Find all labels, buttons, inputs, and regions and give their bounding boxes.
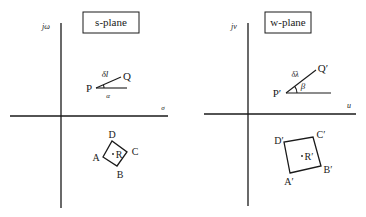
- s-vertex-d: D: [108, 129, 115, 140]
- s-real-axis-label: σ: [161, 104, 165, 112]
- w-square-abcd: [284, 137, 321, 173]
- s-angle-arc: [103, 85, 104, 88]
- w-real-axis-label: u: [347, 101, 351, 110]
- s-vertex-c: C: [132, 146, 139, 157]
- s-angle-label: α: [106, 92, 110, 100]
- w-segment-label: δλ: [291, 70, 299, 79]
- s-vertex-b: B: [117, 169, 124, 180]
- s-center-dot: [112, 153, 114, 155]
- s-segment-label: δl: [102, 69, 109, 79]
- conformal-mapping-diagram: s-plane jω σ P Q δl α A B C D R w-plane …: [0, 0, 366, 217]
- w-point-p: P′: [273, 87, 282, 99]
- w-center-dot: [301, 155, 303, 157]
- w-angle-arc: [295, 86, 297, 93]
- s-point-p: P: [86, 82, 92, 94]
- w-plane-panel: w-plane jv u P′ Q′ δλ β A′ B′ C′ D′ R′: [204, 12, 356, 206]
- w-imag-axis-label: jv: [230, 22, 237, 31]
- s-vertex-a: A: [92, 152, 100, 163]
- w-vertex-c: C′: [317, 129, 326, 140]
- s-plane-title: s-plane: [95, 16, 127, 28]
- w-plane-title: w-plane: [270, 16, 306, 28]
- w-center-label: R′: [305, 151, 314, 162]
- s-plane-panel: s-plane jω σ P Q δl α A B C D R: [10, 12, 168, 208]
- s-imag-axis-label: jω: [41, 22, 50, 31]
- s-segment-pq: [96, 77, 121, 88]
- s-point-q: Q: [123, 70, 131, 82]
- w-vertex-b: B′: [324, 164, 333, 175]
- s-center-label: R: [116, 149, 123, 160]
- w-angle-label: β: [300, 81, 306, 91]
- w-vertex-d: D′: [274, 135, 283, 146]
- w-vertex-a: A′: [284, 176, 293, 187]
- w-point-q: Q′: [318, 62, 328, 74]
